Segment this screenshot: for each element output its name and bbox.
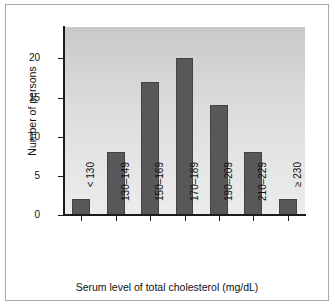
- y-tick-label: 0: [0, 210, 40, 220]
- y-axis-line: [63, 26, 65, 216]
- x-tick-mark: [116, 216, 117, 221]
- x-tick-mark: [81, 216, 82, 221]
- figure-frame: 05101520 Number of persons < 130130–1491…: [5, 4, 329, 301]
- y-tick-mark: [58, 176, 63, 177]
- y-tick-mark: [58, 58, 63, 59]
- x-tick-mark: [288, 216, 289, 221]
- plot-area: [64, 27, 305, 215]
- x-tick-label: 150–169: [154, 162, 165, 224]
- x-tick-mark: [185, 216, 186, 221]
- x-tick-label: ≥ 230: [292, 162, 303, 224]
- x-tick-mark: [253, 216, 254, 221]
- x-tick-label: 190–209: [223, 162, 234, 224]
- x-tick-mark: [150, 216, 151, 221]
- x-tick-label: 210–229: [257, 162, 268, 224]
- x-tick-label: < 130: [85, 162, 96, 224]
- y-axis-title: Number of persons: [26, 41, 38, 181]
- y-tick-mark: [58, 137, 63, 138]
- x-axis-title: Serum level of total cholesterol (mg/dL): [6, 281, 328, 293]
- y-tick-mark: [58, 215, 63, 216]
- x-tick-mark: [219, 216, 220, 221]
- y-tick-mark: [58, 98, 63, 99]
- x-tick-label: 170–189: [189, 162, 200, 224]
- x-tick-label: 130–149: [120, 162, 131, 224]
